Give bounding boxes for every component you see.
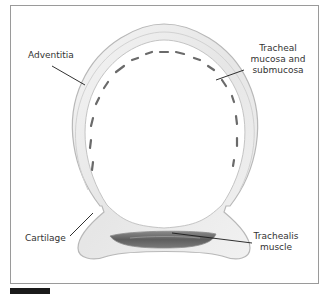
label-cartilage: Cartilage [25,233,66,244]
label-trachealis-line1: Trachealis [246,231,306,242]
cartilage-ring [72,24,257,259]
label-trachealis-line2: muscle [246,242,306,253]
label-adventitia: Adventitia [28,50,74,61]
label-mucosa-line1: Tracheal [246,43,310,54]
label-trachealis-muscle: Trachealis muscle [246,231,306,253]
label-mucosa-line3: submucosa [246,65,310,76]
figure-label-bar [10,288,50,294]
label-mucosa-line2: mucosa and [246,54,310,65]
leader-line-adventitia [52,66,85,85]
label-tracheal-mucosa-submucosa: Tracheal mucosa and submucosa [246,43,310,76]
